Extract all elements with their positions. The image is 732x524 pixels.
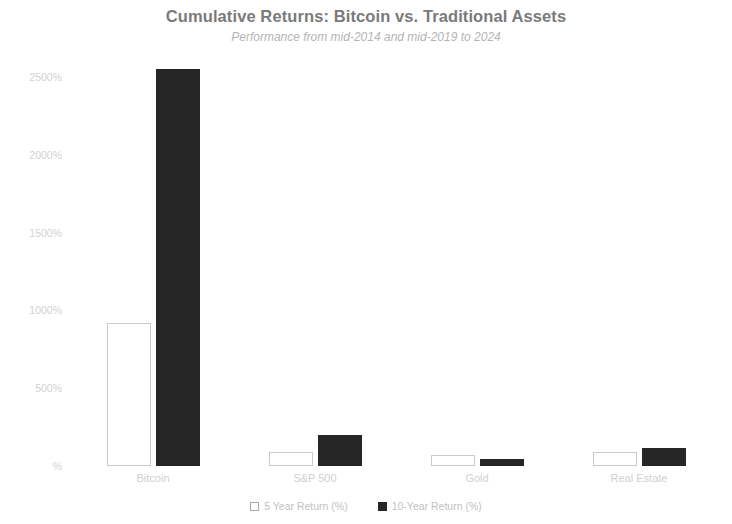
y-axis-tick-1000: 1000% — [29, 304, 62, 316]
x-axis-label-2: Gold — [465, 472, 488, 484]
bar — [593, 452, 637, 466]
legend-label: 10-Year Return (%) — [392, 500, 482, 512]
bar-chart: Cumulative Returns: Bitcoin vs. Traditio… — [0, 0, 732, 524]
bar — [431, 455, 475, 466]
legend-label: 5 Year Return (%) — [264, 500, 347, 512]
bar — [318, 435, 362, 466]
legend-item[interactable]: 5 Year Return (%) — [250, 500, 347, 512]
bar-group — [234, 60, 396, 466]
x-axis-label-3: Real Estate — [611, 472, 668, 484]
bar-group — [72, 60, 234, 466]
y-axis: %500%1000%1500%2000%2500% — [0, 60, 68, 466]
chart-header: Cumulative Returns: Bitcoin vs. Traditio… — [0, 0, 732, 45]
bar — [156, 69, 200, 466]
x-axis-label-0: Bitcoin — [136, 472, 169, 484]
y-axis-tick-2000: 2000% — [29, 149, 62, 161]
bar-group — [396, 60, 558, 466]
bar — [269, 452, 313, 466]
y-axis-tick-500: 500% — [35, 382, 62, 394]
y-axis-tick-1500: 1500% — [29, 227, 62, 239]
y-axis-tick-0: % — [53, 460, 62, 472]
chart-title: Cumulative Returns: Bitcoin vs. Traditio… — [0, 0, 732, 27]
chart-subtitle: Performance from mid-2014 and mid-2019 t… — [0, 27, 732, 45]
legend-item[interactable]: 10-Year Return (%) — [378, 500, 482, 512]
x-axis-label-1: S&P 500 — [293, 472, 336, 484]
bar — [480, 459, 524, 466]
chart-legend: 5 Year Return (%)10-Year Return (%) — [0, 500, 732, 512]
open-square-swatch — [250, 502, 259, 511]
bar — [107, 323, 151, 466]
plot-area — [72, 60, 720, 466]
filled-square-swatch — [378, 502, 387, 511]
y-axis-tick-2500: 2500% — [29, 71, 62, 83]
bar — [642, 448, 686, 466]
bar-group — [558, 60, 720, 466]
